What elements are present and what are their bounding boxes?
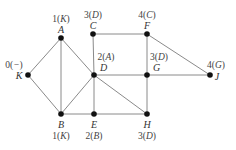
node-J <box>207 72 213 78</box>
edge-C-D <box>93 34 94 75</box>
node-annotation-G: 3(D) <box>150 52 168 63</box>
node-G <box>144 72 150 78</box>
node-label-G: G <box>153 62 160 73</box>
node-D <box>91 72 97 78</box>
node-A <box>58 35 64 41</box>
node-annotation-D: 2(A) <box>98 52 115 63</box>
edge-A-D <box>61 38 94 75</box>
node-label-C: C <box>90 20 97 31</box>
node-annotation-A: 1(K) <box>52 14 69 25</box>
node-label-E: E <box>90 119 97 130</box>
edge-K-A <box>28 38 61 75</box>
node-C <box>90 31 96 37</box>
node-label-H: H <box>142 119 151 130</box>
edge-B-D <box>61 75 94 114</box>
node-label-J: J <box>215 71 220 82</box>
node-annotation-H: 3(D) <box>138 131 156 142</box>
node-annotation-E: 2(B) <box>86 131 103 142</box>
edge-K-B <box>28 75 61 114</box>
node-E <box>91 111 97 117</box>
nodes-layer <box>25 31 213 117</box>
node-B <box>58 111 64 117</box>
node-label-K: K <box>15 70 24 81</box>
node-annotation-B: 1(K) <box>52 131 69 142</box>
node-annotation-J: 4(G) <box>207 60 225 71</box>
node-annotation-K: 0(−) <box>5 60 23 71</box>
edges-layer <box>28 34 210 114</box>
labels-layer: A1(K)C3(D)F4(C)K0(−)D2(A)G3(D)J4(G)B1(K)… <box>5 10 225 142</box>
node-K <box>25 72 31 78</box>
node-label-A: A <box>57 24 65 35</box>
node-annotation-F: 4(C) <box>138 10 155 21</box>
graph-diagram: A1(K)C3(D)F4(C)K0(−)D2(A)G3(D)J4(G)B1(K)… <box>0 0 236 150</box>
edge-D-H <box>94 75 147 114</box>
node-H <box>144 111 150 117</box>
node-label-F: F <box>143 20 151 31</box>
node-annotation-C: 3(D) <box>84 10 102 21</box>
node-F <box>144 31 150 37</box>
node-label-D: D <box>99 62 108 73</box>
node-label-B: B <box>58 119 64 130</box>
